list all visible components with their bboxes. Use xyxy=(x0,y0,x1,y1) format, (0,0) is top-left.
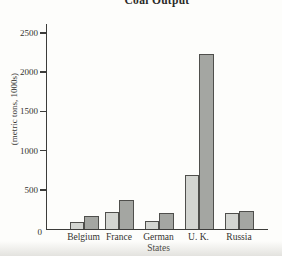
bar-2-france xyxy=(119,200,134,229)
bar-2-u-k xyxy=(199,54,214,229)
x-tick-label-russia: Russia xyxy=(211,232,267,243)
plot-area: 05001000150020002500BelgiumFranceGerman … xyxy=(46,24,268,230)
y-tick-mark xyxy=(40,111,48,113)
bar-1-france xyxy=(105,212,119,229)
chart-page: Coal Output (metric tons, 1000s) 0500100… xyxy=(0,0,282,256)
y-tick-label: 500 xyxy=(1,184,38,196)
bar-2-russia xyxy=(239,211,254,229)
bar-1-belgium xyxy=(70,222,84,229)
y-tick-label: 1500 xyxy=(1,105,38,117)
bar-1-german-states xyxy=(145,221,159,229)
bar-1-russia xyxy=(225,213,239,229)
y-tick-mark xyxy=(40,71,48,73)
bar-2-german-states xyxy=(159,213,174,229)
y-tick-label: 0 xyxy=(1,226,42,238)
y-tick-label: 2500 xyxy=(1,27,38,39)
bar-1-u-k xyxy=(185,175,199,229)
y-tick-mark xyxy=(40,32,48,34)
y-tick-label: 2000 xyxy=(1,66,38,78)
y-tick-mark xyxy=(40,150,48,152)
y-tick-mark xyxy=(40,189,48,191)
chart-title: Coal Output xyxy=(46,0,268,6)
y-tick-label: 1000 xyxy=(1,145,38,157)
bar-2-belgium xyxy=(84,216,99,229)
